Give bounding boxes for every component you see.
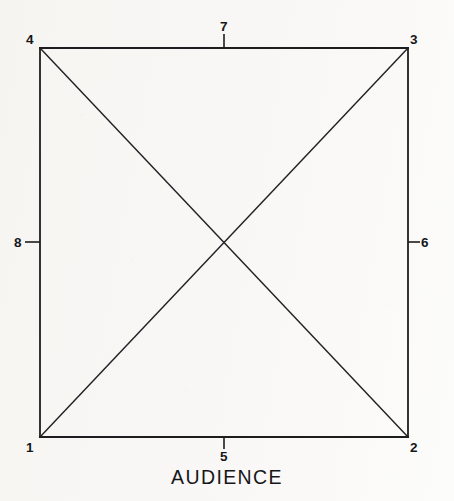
diagonal-lines xyxy=(40,48,408,437)
position-label-4: 4 xyxy=(26,33,34,47)
position-label-5: 5 xyxy=(220,450,228,464)
position-label-2: 2 xyxy=(410,441,418,455)
position-label-7: 7 xyxy=(220,20,228,34)
figure-canvas: 4 3 1 2 7 6 8 5 AUDIENCE xyxy=(0,0,454,501)
position-label-6: 6 xyxy=(421,236,429,250)
audience-caption: AUDIENCE xyxy=(0,468,454,488)
position-label-3: 3 xyxy=(410,33,418,47)
position-label-1: 1 xyxy=(26,441,34,455)
stage-diagram-svg xyxy=(0,0,454,501)
position-label-8: 8 xyxy=(14,236,22,250)
